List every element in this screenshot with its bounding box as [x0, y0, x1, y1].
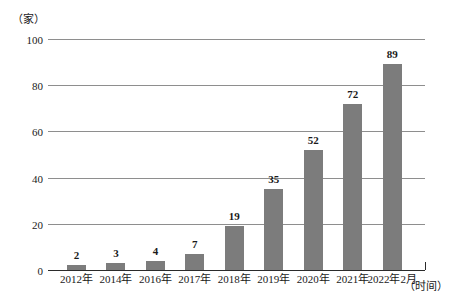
- bar[interactable]: [185, 254, 204, 270]
- bar-group[interactable]: 4: [134, 261, 176, 270]
- x-axis-end-tick: [425, 262, 426, 270]
- y-axis-tick-label: 60: [32, 127, 43, 138]
- bar-group[interactable]: 72: [332, 104, 374, 270]
- bar-value-label: 4: [134, 246, 176, 257]
- bar-value-label: 19: [213, 211, 255, 222]
- bar[interactable]: [264, 189, 283, 270]
- bar[interactable]: [67, 265, 86, 270]
- bar-group[interactable]: 3: [95, 263, 137, 270]
- bar-value-label: 52: [292, 135, 334, 146]
- bar-value-label: 35: [253, 174, 295, 185]
- y-axis-tick-label: 100: [27, 35, 44, 46]
- x-axis-unit-label: （时间）: [404, 277, 448, 293]
- bar-value-label: 7: [174, 239, 216, 250]
- y-axis-unit-label: （家）: [12, 10, 45, 26]
- bar-value-label: 3: [95, 248, 137, 259]
- bar-series: 23471935527289: [48, 39, 425, 270]
- x-axis-line: 0: [48, 270, 425, 271]
- bar[interactable]: [383, 64, 402, 270]
- bar[interactable]: [343, 104, 362, 270]
- bar-group[interactable]: 2: [55, 265, 97, 270]
- plot-area: 020406080100 23471935527289 2012年2014年20…: [48, 39, 425, 270]
- bar[interactable]: [106, 263, 125, 270]
- bar[interactable]: [146, 261, 165, 270]
- bar-group[interactable]: 7: [174, 254, 216, 270]
- bar-group[interactable]: 19: [213, 226, 255, 270]
- bar[interactable]: [304, 150, 323, 270]
- y-axis-tick-label: 80: [32, 81, 43, 92]
- bar-group[interactable]: 52: [292, 150, 334, 270]
- bar-value-label: 2: [55, 250, 97, 261]
- bar-group[interactable]: 35: [253, 189, 295, 270]
- bar-chart: （家） 020406080100 23471935527289 2012年201…: [0, 0, 473, 305]
- bar-value-label: 89: [371, 49, 413, 60]
- y-axis-tick-label: 40: [32, 173, 43, 184]
- bar-value-label: 72: [332, 89, 374, 100]
- bar-group[interactable]: 89: [371, 64, 413, 270]
- y-axis-tick-label: 20: [32, 219, 43, 230]
- bar[interactable]: [225, 226, 244, 270]
